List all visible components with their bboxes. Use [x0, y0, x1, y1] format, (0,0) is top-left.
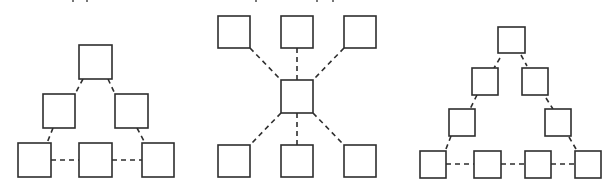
dashed-connector — [75, 79, 83, 94]
dashed-connector — [250, 113, 281, 145]
node-box-g — [474, 151, 501, 178]
clipped-caption-descenders — [72, 0, 334, 2]
node-box-a — [498, 27, 525, 53]
node-box-c — [522, 68, 548, 95]
node-box-t3 — [344, 16, 376, 48]
dashed-connector — [137, 128, 145, 143]
node-box-e — [79, 143, 112, 177]
dashed-connector — [250, 48, 281, 80]
dashed-connector — [47, 128, 53, 143]
dashed-connector — [313, 113, 344, 145]
dashed-connector — [108, 79, 115, 94]
triangle-topology-10 — [420, 27, 601, 178]
node-box-f — [142, 143, 174, 177]
node-box-b2 — [281, 145, 313, 177]
node-box-d — [18, 143, 51, 177]
dashed-connector — [470, 95, 477, 109]
dashed-connector — [446, 136, 451, 149]
triangle-topology-6 — [18, 45, 174, 177]
star-topology — [218, 16, 376, 177]
dashed-connector — [521, 55, 527, 66]
node-box-c — [115, 94, 148, 128]
node-box-f — [420, 151, 446, 178]
dashed-connector — [313, 48, 344, 80]
node-box-d — [449, 109, 475, 136]
node-box-b — [43, 94, 75, 128]
node-box-b — [472, 68, 498, 95]
dashed-connector — [546, 98, 553, 109]
node-box-a — [79, 45, 112, 79]
node-box-h — [525, 151, 551, 178]
node-box-i — [575, 151, 601, 178]
node-box-t1 — [218, 16, 250, 48]
node-box-hub — [281, 80, 313, 113]
node-box-t2 — [281, 16, 313, 48]
dashed-connector — [569, 137, 576, 149]
dashed-connector — [494, 58, 500, 68]
node-box-e — [545, 109, 571, 136]
node-box-b3 — [344, 145, 376, 177]
diagram-canvas — [0, 0, 603, 192]
node-box-b1 — [218, 145, 250, 177]
